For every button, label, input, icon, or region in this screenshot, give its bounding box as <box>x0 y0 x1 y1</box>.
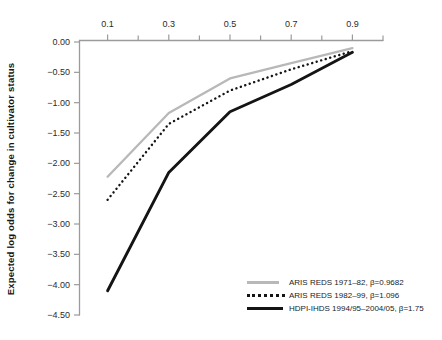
svg-text:−1.00: −1.00 <box>47 98 70 108</box>
legend-item-aris-reds-1982-99: ARIS REDS 1982–99, β=1.096 <box>247 291 424 300</box>
svg-text:−2.50: −2.50 <box>47 189 70 199</box>
svg-text:0.5: 0.5 <box>224 19 237 29</box>
svg-text:−0.50: −0.50 <box>47 67 70 77</box>
chart-figure: Expected log odds for change in cultivat… <box>0 0 442 340</box>
svg-text:−3.50: −3.50 <box>47 249 70 259</box>
svg-text:0.00: 0.00 <box>52 37 70 47</box>
legend-label: ARIS REDS 1971–82, β=0.9682 <box>287 278 404 287</box>
svg-text:−2.00: −2.00 <box>47 158 70 168</box>
legend-item-aris-reds-1971-82: ARIS REDS 1971–82, β=0.9682 <box>247 278 424 287</box>
svg-text:0.1: 0.1 <box>101 19 114 29</box>
svg-text:−3.00: −3.00 <box>47 219 70 229</box>
legend: ARIS REDS 1971–82, β=0.9682 ARIS REDS 19… <box>247 278 424 313</box>
legend-item-hdpi-ihds: HDPI-IHDS 1994/95–2004/05, β=1.75 <box>247 304 424 313</box>
dotted-line-swatch <box>247 294 285 297</box>
legend-swatch-box <box>247 307 287 310</box>
svg-text:−4.00: −4.00 <box>47 280 70 290</box>
svg-text:−1.50: −1.50 <box>47 128 70 138</box>
legend-swatch-box <box>247 281 287 284</box>
legend-label: HDPI-IHDS 1994/95–2004/05, β=1.75 <box>287 304 424 313</box>
gray-solid-line-swatch <box>247 281 279 284</box>
legend-swatch-box <box>247 294 287 297</box>
svg-text:0.9: 0.9 <box>346 19 359 29</box>
legend-label: ARIS REDS 1982–99, β=1.096 <box>287 291 399 300</box>
svg-text:0.3: 0.3 <box>163 19 176 29</box>
svg-text:0.7: 0.7 <box>285 19 298 29</box>
svg-text:−4.50: −4.50 <box>47 310 70 320</box>
black-solid-line-swatch <box>247 307 283 310</box>
